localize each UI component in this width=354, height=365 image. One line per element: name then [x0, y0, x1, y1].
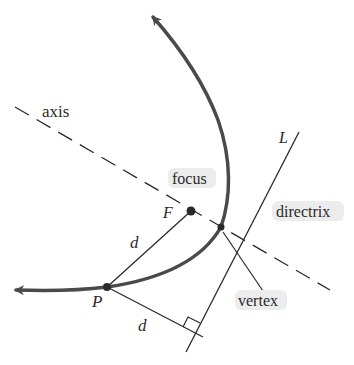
- directrix-label: directrix: [276, 203, 330, 220]
- segment-p-to-directrix: [107, 287, 203, 337]
- right-angle-marker: [183, 317, 200, 327]
- focus-point-label: F: [162, 204, 173, 221]
- vertex-point: [218, 224, 225, 231]
- segment-p-to-focus: [107, 211, 191, 287]
- distance-to-focus-label: d: [130, 233, 139, 252]
- parabola-upper-branch: [153, 17, 229, 227]
- axis-label: axis: [42, 102, 69, 121]
- directrix-line-label: L: [278, 129, 288, 146]
- vertex-label: vertex: [238, 292, 278, 309]
- point-p-label: P: [91, 292, 102, 311]
- focus-point: [187, 207, 196, 216]
- directrix-line: [186, 132, 299, 352]
- point-p: [103, 283, 111, 291]
- distance-to-directrix-label: d: [138, 316, 147, 335]
- parabola-lower-branch: [16, 227, 221, 291]
- focus-label: focus: [172, 170, 207, 187]
- parabola-diagram: axis focus F L directrix vertex P d d: [0, 0, 354, 365]
